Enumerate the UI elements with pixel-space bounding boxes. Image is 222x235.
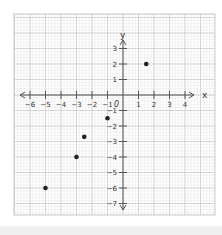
x-tick-label: 3 <box>167 101 171 109</box>
x-tick-label: 4 <box>183 101 188 109</box>
y-tick-label: −3 <box>107 138 117 146</box>
x-tick-label: −2 <box>87 101 97 109</box>
data-point <box>43 186 48 191</box>
x-tick-label: −4 <box>56 101 67 109</box>
x-tick-label: −6 <box>25 101 36 109</box>
x-tick-label: 2 <box>152 101 156 109</box>
data-point <box>105 116 110 121</box>
y-tick-label: 1 <box>113 76 117 84</box>
y-tick-label: −2 <box>107 123 117 131</box>
y-tick-label: −5 <box>107 169 117 177</box>
y-axis-label: y <box>120 30 126 40</box>
x-axis-label: x <box>202 90 208 100</box>
y-tick-label: −6 <box>107 185 118 193</box>
origin-label: 0 <box>114 100 119 109</box>
y-tick-label: −4 <box>107 154 118 162</box>
x-tick-label: −3 <box>71 101 81 109</box>
bottom-band <box>0 226 222 235</box>
y-tick-label: 2 <box>113 61 117 69</box>
data-point <box>74 155 79 160</box>
y-tick-label: −7 <box>107 200 117 208</box>
coordinate-plane: −6−5−4−3−2−11234321−1−2−3−4−5−6−7 x y 0 <box>0 0 222 226</box>
x-tick-label: −5 <box>40 101 50 109</box>
data-point <box>82 135 87 140</box>
y-tick-label: 3 <box>113 45 117 53</box>
x-tick-label: 1 <box>136 101 140 109</box>
data-point <box>144 62 149 67</box>
